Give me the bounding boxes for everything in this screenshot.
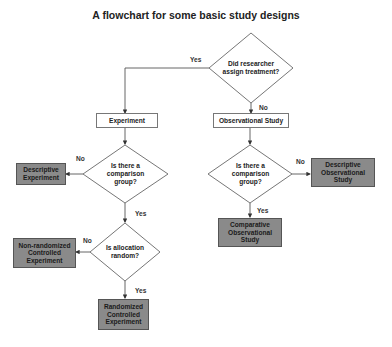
edge-label-assign-no: No (259, 104, 268, 111)
experiment-box: Experiment (96, 113, 158, 128)
edge-label-comp-obs-no: No (296, 158, 305, 165)
comparative-observational-box: Comparative Observational Study (218, 218, 282, 247)
observational-study-box: Observational Study (213, 113, 289, 128)
edge-label-comp-exp-no: No (76, 155, 85, 162)
edge-label-random-no: No (83, 237, 92, 244)
descriptive-experiment-box: Descriptive Experiment (16, 163, 66, 185)
nonrandomized-controlled-box: Non-randomized Controlled Experiment (13, 238, 76, 268)
decision-comparison-obs-text: Is there a comparison group? (223, 160, 278, 188)
decision-comparison-exp-text: Is there a comparison group? (98, 160, 153, 188)
edge-label-comp-obs-yes: Yes (257, 207, 268, 214)
edge-label-assign-yes: Yes (190, 56, 201, 63)
descriptive-observational-box: Descriptive Observational Study (311, 158, 375, 187)
decision-assign-text: Did researcher assign treatment? (221, 50, 281, 86)
edge-label-comp-exp-yes: Yes (135, 210, 146, 217)
decision-random-text: Is allocation random? (105, 239, 145, 265)
edge-label-random-yes: Yes (135, 287, 146, 294)
randomized-controlled-box: Randomized Controlled Experiment (98, 299, 149, 330)
